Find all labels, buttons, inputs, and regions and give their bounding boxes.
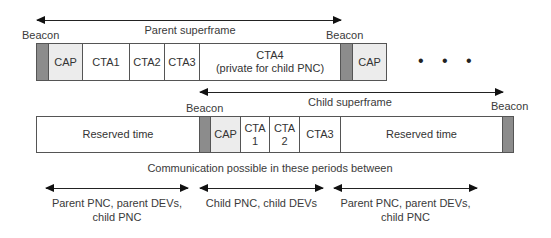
arrow-head-left-icon bbox=[45, 184, 54, 192]
arrow-head-left-icon bbox=[333, 184, 342, 192]
period-1-line1: Parent PNC, parent DEVs, bbox=[46, 196, 188, 210]
ellipsis-icon: • • • bbox=[418, 52, 479, 70]
parent-cta4-sublabel: (private for child PNC) bbox=[216, 62, 324, 75]
child-beacon-slot-2 bbox=[502, 116, 514, 153]
child-cta2-slot: CTA 2 bbox=[269, 116, 300, 153]
parent-cta3-slot: CTA3 bbox=[164, 43, 200, 81]
arrow-head-right-icon bbox=[315, 184, 324, 192]
child-cta2-number: 2 bbox=[281, 135, 287, 148]
child-reserved-left-slot: Reserved time bbox=[36, 116, 200, 153]
period-3-line1: Parent PNC, parent DEVs, bbox=[334, 196, 477, 210]
period-2-line1: Child PNC, child DEVs bbox=[200, 196, 323, 210]
period-3-line2: child PNC bbox=[334, 210, 477, 224]
reserved-time-label: Reserved time bbox=[386, 128, 457, 141]
reserved-time-label: Reserved time bbox=[83, 128, 154, 141]
parent-cap2-label: CAP bbox=[358, 56, 381, 69]
period-arrow-2 bbox=[200, 188, 323, 189]
child-superframe-arrow bbox=[200, 92, 503, 93]
parent-cta1-slot: CTA1 bbox=[82, 43, 130, 81]
period-1-line2: child PNC bbox=[46, 210, 188, 224]
period-arrow-3 bbox=[334, 188, 477, 189]
parent-cta4-slot: CTA4 (private for child PNC) bbox=[199, 43, 341, 81]
child-cta3-slot: CTA3 bbox=[299, 116, 341, 153]
parent-superframe-arrow bbox=[37, 20, 341, 21]
arrow-head-right-icon bbox=[495, 88, 504, 96]
arrow-head-left-icon bbox=[36, 16, 45, 24]
arrow-head-left-icon bbox=[199, 88, 208, 96]
parent-cta4-label: CTA4 bbox=[256, 49, 283, 62]
child-cap-label: CAP bbox=[214, 128, 237, 141]
parent-cap-label: CAP bbox=[54, 56, 77, 69]
child-cta1-slot: CTA 1 bbox=[240, 116, 270, 153]
period-2-label: Child PNC, child DEVs bbox=[200, 196, 323, 210]
parent-cta2-slot: CTA2 bbox=[129, 43, 165, 81]
period-arrow-1 bbox=[46, 188, 188, 189]
child-superframe-label: Child superframe bbox=[300, 96, 400, 108]
arrow-head-right-icon bbox=[180, 184, 189, 192]
parent-cta1-label: CTA1 bbox=[92, 56, 119, 69]
period-3-label: Parent PNC, parent DEVs, child PNC bbox=[334, 196, 477, 224]
child-cta3-label: CTA3 bbox=[306, 128, 333, 141]
arrow-head-right-icon bbox=[333, 16, 342, 24]
child-beacon-left-label: Beacon bbox=[186, 102, 223, 114]
arrow-head-right-icon bbox=[469, 184, 478, 192]
parent-cta3-label: CTA3 bbox=[168, 56, 195, 69]
parent-superframe-label: Parent superframe bbox=[140, 24, 240, 36]
child-reserved-right-slot: Reserved time bbox=[340, 116, 503, 153]
child-cta1-number: 1 bbox=[252, 135, 258, 148]
parent-cap-slot: CAP bbox=[48, 43, 83, 81]
arrow-head-left-icon bbox=[199, 184, 208, 192]
child-cap-slot: CAP bbox=[210, 116, 241, 153]
child-cta2-label: CTA bbox=[274, 122, 295, 135]
parent-cap-slot-2: CAP bbox=[352, 43, 387, 81]
parent-beacon-left-label: Beacon bbox=[22, 29, 59, 41]
parent-beacon-right-label: Beacon bbox=[326, 29, 363, 41]
child-cta1-label: CTA bbox=[244, 122, 265, 135]
communication-heading: Communication possible in these periods … bbox=[120, 162, 420, 174]
period-1-label: Parent PNC, parent DEVs, child PNC bbox=[46, 196, 188, 224]
parent-cta2-label: CTA2 bbox=[133, 56, 160, 69]
child-beacon-right-label: Beacon bbox=[491, 100, 528, 112]
